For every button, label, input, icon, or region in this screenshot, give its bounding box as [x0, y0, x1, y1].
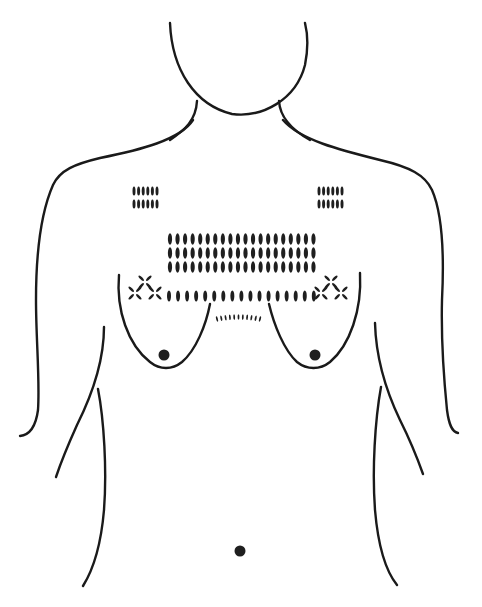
- scar-mark: [185, 291, 189, 302]
- scar-mark: [220, 315, 223, 321]
- scar-mark: [151, 187, 154, 196]
- scar-mark: [176, 291, 180, 302]
- right-nipple-dot: [310, 350, 321, 361]
- scar-mark: [336, 200, 339, 209]
- scar-mark: [311, 261, 315, 273]
- scar-mark: [334, 293, 341, 300]
- scar-mark: [296, 247, 300, 259]
- scar-mark: [243, 247, 247, 259]
- scar-mark: [259, 247, 263, 259]
- left-waist-outline: [83, 389, 105, 586]
- sternum-arc-ticks: [215, 314, 261, 322]
- scar-mark: [331, 275, 338, 282]
- scar-mark: [311, 233, 315, 245]
- scar-mark: [266, 247, 270, 259]
- scar-mark: [168, 233, 172, 245]
- left-shoulder-arm-outline: [20, 120, 193, 436]
- scar-mark: [146, 187, 149, 196]
- scar-mark: [243, 261, 247, 273]
- scar-mark: [341, 293, 348, 300]
- scar-mark: [281, 261, 285, 273]
- scar-mark: [274, 261, 278, 273]
- scar-mark: [341, 200, 344, 209]
- scar-mark: [331, 200, 334, 209]
- scar-mark: [289, 261, 293, 273]
- scar-mark: [304, 261, 308, 273]
- scar-mark: [168, 261, 172, 273]
- scar-mark: [128, 293, 135, 300]
- scar-mark: [135, 293, 142, 300]
- scar-mark: [296, 261, 300, 273]
- scar-mark: [221, 291, 225, 302]
- scar-mark: [175, 233, 179, 245]
- scar-mark: [276, 291, 280, 302]
- scar-mark: [142, 200, 145, 209]
- scar-mark: [250, 315, 253, 321]
- torso-figure: [0, 0, 482, 607]
- scar-mark: [312, 291, 316, 302]
- scar-mark: [206, 261, 210, 273]
- scar-mark: [198, 261, 202, 273]
- scar-mark: [243, 233, 247, 245]
- scar-mark: [296, 233, 300, 245]
- scar-mark: [281, 247, 285, 259]
- scar-mark: [155, 286, 162, 293]
- scar-mark: [191, 247, 195, 259]
- scar-mark: [238, 314, 240, 320]
- scar-mark: [175, 247, 179, 259]
- left-inner-arm-outline: [56, 327, 104, 477]
- scar-mark: [221, 261, 225, 273]
- horizontal-scar-row: [167, 291, 316, 302]
- scar-mark: [246, 314, 248, 320]
- scar-mark: [266, 261, 270, 273]
- scar-mark: [334, 286, 341, 293]
- scar-mark: [156, 200, 159, 209]
- scar-mark: [303, 291, 307, 302]
- scar-mark: [248, 291, 252, 302]
- scar-mark: [137, 187, 140, 196]
- scar-mark: [236, 247, 240, 259]
- scar-mark: [321, 286, 328, 293]
- scar-mark: [236, 261, 240, 273]
- scar-mark: [228, 247, 232, 259]
- scar-mark: [322, 187, 325, 196]
- scar-mark: [304, 233, 308, 245]
- scar-mark: [148, 293, 155, 300]
- scar-mark: [341, 187, 344, 196]
- scar-mark: [183, 247, 187, 259]
- right-waist-outline: [374, 387, 397, 585]
- scar-mark: [311, 247, 315, 259]
- scar-mark: [167, 291, 171, 302]
- scar-mark: [289, 233, 293, 245]
- scar-mark: [242, 314, 244, 320]
- scar-mark: [259, 233, 263, 245]
- scar-mark: [138, 275, 145, 282]
- scar-mark: [230, 291, 234, 302]
- scar-mark: [254, 315, 257, 321]
- scar-mark: [183, 233, 187, 245]
- scar-mark: [183, 261, 187, 273]
- scar-mark: [151, 200, 154, 209]
- scar-mark: [318, 187, 321, 196]
- scar-mark: [213, 233, 217, 245]
- upper-left-scar-block: [133, 187, 159, 209]
- scar-mark: [221, 233, 225, 245]
- scar-mark: [191, 233, 195, 245]
- right-inner-arm-outline: [375, 323, 423, 474]
- scar-mark: [294, 291, 298, 302]
- scar-mark: [274, 233, 278, 245]
- scar-mark: [281, 233, 285, 245]
- scar-mark: [327, 187, 330, 196]
- scar-mark: [239, 291, 243, 302]
- scar-mark: [285, 291, 289, 302]
- scar-mark: [331, 187, 334, 196]
- scar-mark: [289, 247, 293, 259]
- scar-mark: [274, 247, 278, 259]
- scar-mark: [229, 314, 231, 320]
- scar-mark: [133, 187, 136, 196]
- scar-mark: [266, 233, 270, 245]
- scar-mark: [206, 247, 210, 259]
- scar-mark: [324, 275, 331, 282]
- scar-mark: [212, 291, 216, 302]
- central-scar-grid: [168, 233, 316, 273]
